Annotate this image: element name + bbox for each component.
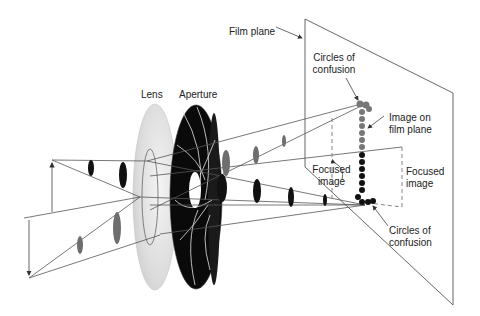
label-aperture: Aperture [179,89,217,101]
label-line: Focused [309,164,354,176]
label-line: image [406,178,444,190]
label-line: image [309,176,354,188]
label-line: Image on [389,112,432,124]
label-line: Circles of [309,52,359,64]
label-line: film plane [389,124,432,136]
label-circles-of-confusion-bottom: Circles of confusion [389,225,432,249]
depth-of-field-diagram [0,0,480,316]
label-line: confusion [389,237,432,249]
label-focused-image-left: Focused image [309,164,354,188]
label-line: confusion [309,64,359,76]
label-focused-image-right: Focused image [406,166,444,190]
label-line: Circles of [389,225,432,237]
label-lens: Lens [141,89,163,101]
label-film-plane: Film plane [229,26,275,38]
label-image-on-film-plane: Image on film plane [389,112,432,136]
label-circles-of-confusion-top: Circles of confusion [309,52,359,76]
label-line: Focused [406,166,444,178]
